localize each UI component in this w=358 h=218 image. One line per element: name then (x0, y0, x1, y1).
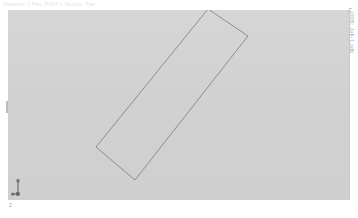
side-annotation-text: ODB: Job-1.odb (347, 12, 357, 72)
viewport-drawing-surface[interactable] (8, 10, 350, 200)
cad-application-window: Viewport: 1 Part: PART-1 Module: Part 2 … (0, 0, 358, 218)
axis-triad-icon (10, 178, 36, 200)
viewport-canvas[interactable] (8, 10, 350, 200)
axis-triad (10, 178, 36, 200)
rotated-rectangle-part[interactable] (96, 10, 248, 180)
viewport-header-caption: Viewport: 1 Part: PART-1 Module: Part (3, 0, 183, 9)
axis-triad-label: 2 (9, 202, 12, 209)
